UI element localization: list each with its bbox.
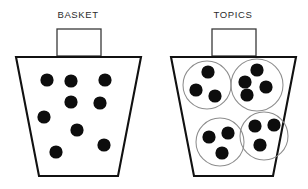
item-dot — [189, 83, 202, 96]
item-dot — [202, 130, 215, 143]
item-dot — [93, 96, 106, 109]
item-dot — [208, 89, 221, 102]
item-dot — [64, 74, 77, 87]
topics-panel-handle — [212, 29, 256, 56]
item-dot — [215, 146, 228, 159]
item-dot — [98, 73, 111, 86]
basket-panel: BASKET — [16, 9, 141, 176]
item-dot — [70, 123, 83, 136]
item-dot — [250, 63, 263, 76]
topics-panel-title: TOPICS — [214, 9, 253, 20]
item-dot — [267, 118, 280, 131]
item-dot — [49, 145, 62, 158]
topics-panel: TOPICS — [171, 9, 296, 176]
item-dot — [64, 95, 77, 108]
basket-panel-handle — [57, 29, 101, 56]
item-dot — [37, 110, 50, 123]
item-dot — [259, 80, 272, 93]
item-dot — [240, 88, 253, 101]
item-dot — [248, 119, 261, 132]
basket-panel-basket-shape — [16, 57, 141, 176]
item-dot — [238, 75, 251, 88]
basket-panel-title: BASKET — [57, 9, 98, 20]
diagram-canvas: BASKETTOPICS — [0, 0, 308, 189]
item-dot — [97, 138, 110, 151]
item-dot — [40, 73, 53, 86]
item-dot — [221, 126, 234, 139]
item-dot — [253, 138, 266, 151]
diagram-root: BASKETTOPICS — [0, 0, 308, 189]
item-dot — [201, 65, 214, 78]
